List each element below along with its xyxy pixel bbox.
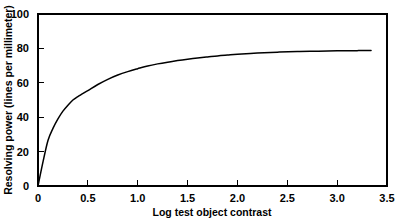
x-tick-label: 2.5 — [280, 192, 295, 204]
chart-container: 020406080100 00.51.01.52.02.53.03.5 Log … — [0, 0, 403, 222]
x-axis-title: Log test object contrast — [152, 206, 272, 218]
x-tick-label: 0.5 — [80, 192, 95, 204]
y-tick-label: 0 — [23, 180, 29, 192]
x-tick-label: 1.0 — [130, 192, 145, 204]
y-axis-ticks: 020406080100 — [11, 8, 44, 192]
x-axis-ticks: 00.51.01.52.02.53.03.5 — [35, 180, 395, 204]
axes-box — [38, 14, 387, 186]
data-curve-resolving-power — [38, 50, 371, 186]
x-tick-label: 1.5 — [180, 192, 195, 204]
x-tick-label: 2.0 — [230, 192, 245, 204]
y-tick-label: 60 — [17, 77, 29, 89]
x-tick-label: 0 — [35, 192, 41, 204]
x-tick-label: 3.5 — [379, 192, 394, 204]
y-tick-label: 20 — [17, 146, 29, 158]
plot-frame — [38, 14, 387, 186]
y-tick-label: 40 — [17, 111, 29, 123]
y-axis-title: Resolving power (lines per millimeter) — [2, 5, 14, 195]
resolving-power-chart: 020406080100 00.51.01.52.02.53.03.5 Log … — [0, 0, 403, 222]
y-tick-label: 80 — [17, 42, 29, 54]
x-tick-label: 3.0 — [329, 192, 344, 204]
